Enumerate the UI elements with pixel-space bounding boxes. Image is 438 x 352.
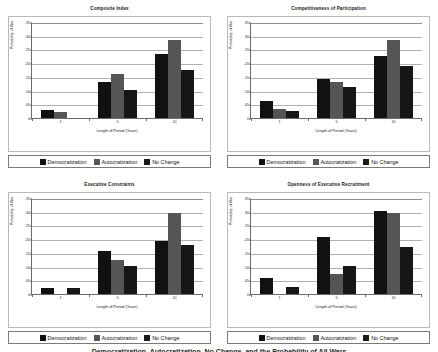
legend-swatch-icon bbox=[313, 159, 319, 165]
bar-group: 10 bbox=[146, 23, 203, 118]
y-tick-label: .10 bbox=[25, 90, 30, 94]
legend-label: Democratization bbox=[48, 335, 87, 341]
plot-area: .35.30.25.20.15.10.0501510 bbox=[250, 23, 422, 119]
x-tick-mark bbox=[251, 294, 252, 297]
legend-label: Democratization bbox=[48, 159, 87, 165]
legend-item: No Change bbox=[363, 159, 398, 165]
legend-item: Democratization bbox=[40, 159, 87, 165]
x-tick-label: 1 bbox=[279, 296, 281, 300]
legend-swatch-icon bbox=[259, 335, 265, 341]
legend-swatch-icon bbox=[94, 335, 100, 341]
chart-title: Competitiveness of Participation bbox=[219, 6, 438, 11]
legend-swatch-icon bbox=[40, 159, 46, 165]
y-tick-label: .35 bbox=[25, 197, 30, 201]
chart-legend: DemocratizationAutocratizationNo Change bbox=[8, 331, 211, 344]
bar bbox=[41, 110, 54, 118]
legend-swatch-icon bbox=[40, 335, 46, 341]
bar-groups: 1510 bbox=[32, 23, 203, 118]
bar bbox=[273, 109, 286, 118]
y-tick-label: .35 bbox=[25, 21, 30, 25]
x-tick-label: 5 bbox=[336, 120, 338, 124]
plot-frame: Probability of War .35.30.25.20.15.10.05… bbox=[227, 16, 430, 152]
x-tick-mark bbox=[32, 294, 33, 297]
figure-caption: Democratization, Autocratization, No Cha… bbox=[0, 346, 438, 352]
x-tick-label: 10 bbox=[173, 120, 177, 124]
chart-legend: DemocratizationAutocratizationNo Change bbox=[8, 155, 211, 168]
legend-item: Autocratization bbox=[313, 335, 357, 341]
legend-swatch-icon bbox=[363, 159, 369, 165]
legend-label: Autocratization bbox=[321, 335, 357, 341]
y-tick-label: .05 bbox=[244, 279, 249, 283]
y-tick-label: .20 bbox=[244, 238, 249, 242]
bar-groups: 1510 bbox=[251, 23, 422, 118]
y-tick-label: .10 bbox=[244, 90, 249, 94]
legend-swatch-icon bbox=[144, 335, 150, 341]
y-tick-label: .05 bbox=[25, 279, 30, 283]
y-tick-label: 0 bbox=[247, 293, 249, 297]
x-tick-mark bbox=[89, 294, 90, 297]
x-tick-mark bbox=[308, 294, 309, 297]
plot-area: .35.30.25.20.15.10.0501510 bbox=[250, 199, 422, 295]
bar bbox=[317, 79, 330, 118]
x-tick-mark bbox=[146, 294, 147, 297]
x-tick-mark bbox=[202, 118, 203, 121]
y-tick-label: .15 bbox=[244, 252, 249, 256]
x-axis-label: Length of Period (Years) bbox=[250, 129, 422, 133]
y-tick-label: .25 bbox=[244, 224, 249, 228]
figure-panel-grid: Composite Index Probability of War .35.3… bbox=[0, 0, 438, 352]
legend-label: Democratization bbox=[267, 159, 306, 165]
x-tick-label: 5 bbox=[336, 296, 338, 300]
bar-group: 10 bbox=[365, 23, 422, 118]
y-tick-label: .20 bbox=[25, 238, 30, 242]
bar bbox=[374, 211, 387, 294]
y-axis-label: Probability of War bbox=[10, 187, 14, 235]
x-axis-label: Length of Period (Years) bbox=[31, 305, 203, 309]
bar bbox=[317, 237, 330, 294]
plot-area: .35.30.25.20.15.10.0501510 bbox=[31, 23, 203, 119]
x-tick-label: 5 bbox=[117, 120, 119, 124]
legend-item: Autocratization bbox=[94, 335, 138, 341]
x-tick-label: 1 bbox=[60, 296, 62, 300]
chart-title: Composite Index bbox=[0, 6, 219, 11]
y-axis-label: Probability of War bbox=[10, 11, 14, 59]
x-tick-label: 10 bbox=[392, 296, 396, 300]
chart-panel-competitiveness-of-participation: Competitiveness of Participation Probabi… bbox=[219, 0, 438, 176]
bar bbox=[286, 111, 299, 118]
x-tick-label: 10 bbox=[392, 120, 396, 124]
bar-group: 5 bbox=[89, 23, 146, 118]
bar bbox=[343, 87, 356, 118]
chart-panel-executive-constraints: Executive Constraints Probability of War… bbox=[0, 176, 219, 352]
y-tick-label: .15 bbox=[25, 76, 30, 80]
bar-group: 5 bbox=[308, 199, 365, 294]
chart-panel-composite-index: Composite Index Probability of War .35.3… bbox=[0, 0, 219, 176]
legend-label: No Change bbox=[371, 335, 398, 341]
bar bbox=[124, 266, 137, 294]
bar-group: 5 bbox=[308, 23, 365, 118]
bar bbox=[67, 288, 80, 294]
y-tick-label: 0 bbox=[28, 117, 30, 121]
bar-group: 10 bbox=[146, 199, 203, 294]
legend-item: Autocratization bbox=[94, 159, 138, 165]
y-tick-label: .10 bbox=[25, 266, 30, 270]
x-tick-mark bbox=[251, 118, 252, 121]
legend-label: Autocratization bbox=[321, 159, 357, 165]
bar bbox=[111, 74, 124, 118]
x-tick-label: 1 bbox=[60, 120, 62, 124]
x-tick-mark bbox=[365, 294, 366, 297]
bar bbox=[374, 56, 387, 118]
y-tick-label: .35 bbox=[244, 197, 249, 201]
y-tick-label: .05 bbox=[25, 103, 30, 107]
bar bbox=[400, 247, 413, 294]
bar bbox=[168, 40, 181, 118]
x-tick-mark bbox=[421, 118, 422, 121]
legend-label: Democratization bbox=[267, 335, 306, 341]
y-tick-label: .30 bbox=[25, 211, 30, 215]
plot-frame: Probability of War .35.30.25.20.15.10.05… bbox=[227, 192, 430, 328]
legend-swatch-icon bbox=[259, 159, 265, 165]
y-tick-label: .20 bbox=[25, 62, 30, 66]
bar bbox=[387, 40, 400, 118]
legend-item: No Change bbox=[144, 335, 179, 341]
bar-group: 1 bbox=[32, 199, 89, 294]
legend-label: Autocratization bbox=[102, 159, 138, 165]
legend-swatch-icon bbox=[94, 159, 100, 165]
